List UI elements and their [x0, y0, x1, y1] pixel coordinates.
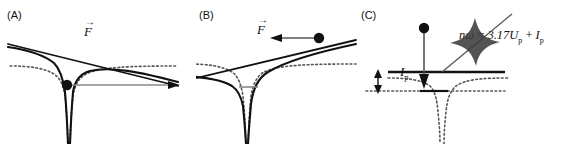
panel-b-tilted-potential-left — [196, 76, 246, 144]
panel-a-diagram — [0, 0, 196, 144]
panel-c-ip-arrow-head-up — [374, 69, 382, 78]
panel-a-electron-dot — [62, 80, 72, 90]
panel-b: (B) → F — [196, 0, 360, 144]
panel-a-dotted-potential-left — [10, 66, 68, 144]
panel-c-electron-dot — [419, 23, 429, 33]
panel-c: (C) nω = 3.17Up + Ip Ip — [360, 0, 585, 144]
panel-c-ip-arrow-head-down — [374, 85, 382, 94]
panel-a: (A) → F — [0, 0, 196, 144]
panel-c-diagram — [360, 0, 585, 144]
panel-a-tilted-potential-right — [70, 69, 178, 144]
panel-b-trajectory-arrow-head — [270, 34, 282, 42]
panel-c-dotted-potential-left — [388, 78, 440, 144]
panel-a-field-line — [8, 44, 178, 86]
panel-c-dotted-potential-right — [444, 78, 508, 144]
panel-a-tilted-potential-left — [8, 47, 68, 144]
hhg-three-step-figure: (A) → F (B) → F — [0, 0, 585, 144]
panel-b-tilted-potential-right — [248, 44, 356, 144]
panel-b-electron-dot — [314, 33, 324, 43]
panel-b-field-line — [196, 40, 356, 80]
panel-b-diagram — [196, 0, 360, 144]
